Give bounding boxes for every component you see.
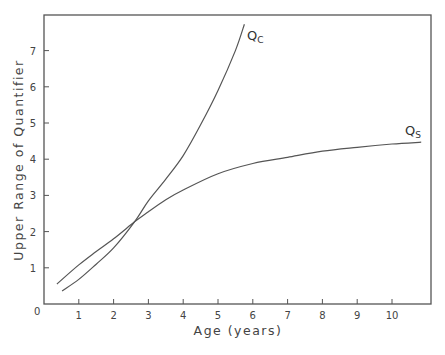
- origin-label: 0: [34, 306, 40, 317]
- x-axis-ticks: 12345678910: [76, 299, 399, 321]
- x-tick-label: 7: [284, 310, 290, 321]
- x-axis-label: Age (years): [194, 323, 283, 338]
- y-tick-label: 2: [30, 227, 36, 238]
- x-tick-label: 10: [386, 310, 399, 321]
- chart: 12345678910 1234567 0 Age (years) Upper …: [0, 0, 445, 355]
- series-qs-label: QS: [405, 123, 421, 140]
- x-tick-label: 8: [319, 310, 325, 321]
- plot-frame: [44, 15, 431, 304]
- y-tick-label: 7: [30, 46, 36, 57]
- y-axis-ticks: 1234567: [30, 46, 49, 274]
- series-qc-label: QC: [247, 28, 264, 45]
- y-tick-label: 4: [30, 154, 36, 165]
- x-tick-label: 5: [215, 310, 221, 321]
- x-tick-label: 4: [180, 310, 186, 321]
- y-tick-label: 3: [30, 190, 36, 201]
- y-tick-label: 6: [30, 82, 36, 93]
- y-tick-label: 5: [30, 118, 36, 129]
- series-qc-line: [62, 24, 244, 291]
- series-qs-line: [57, 142, 421, 284]
- y-tick-label: 1: [30, 263, 36, 274]
- y-axis-label: Upper Range of Quantifier: [11, 59, 26, 260]
- x-tick-label: 1: [76, 310, 82, 321]
- x-tick-label: 6: [250, 310, 256, 321]
- x-tick-label: 2: [110, 310, 116, 321]
- x-tick-label: 3: [145, 310, 151, 321]
- x-tick-label: 9: [354, 310, 360, 321]
